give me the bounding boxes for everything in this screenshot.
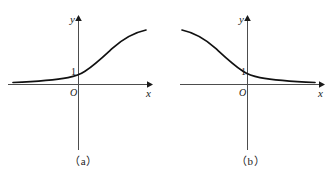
origin-label-b: O	[239, 88, 246, 98]
origin-label-a: O	[70, 88, 77, 98]
exponential-functions-figure: y x O 1 （a） y x O 1	[0, 0, 334, 183]
x-axis-label-a: x	[146, 88, 151, 99]
exponential-decay-curve	[182, 30, 315, 83]
panel-b-caption: （b）	[167, 152, 334, 168]
panel-b: y x O 1 （b）	[167, 0, 334, 183]
y-intercept-label-b: 1	[241, 67, 246, 77]
exponential-growth-curve	[13, 30, 146, 83]
y-axis-label-a: y	[70, 14, 75, 25]
y-axis-arrow-a	[75, 15, 82, 21]
panel-a-caption: （a）	[0, 152, 167, 168]
x-axis-label-b: x	[318, 88, 323, 99]
y-axis-arrow-b	[244, 15, 251, 21]
y-intercept-label-a: 1	[71, 67, 76, 77]
y-axis-label-b: y	[239, 14, 244, 25]
panel-a: y x O 1 （a）	[0, 0, 167, 183]
